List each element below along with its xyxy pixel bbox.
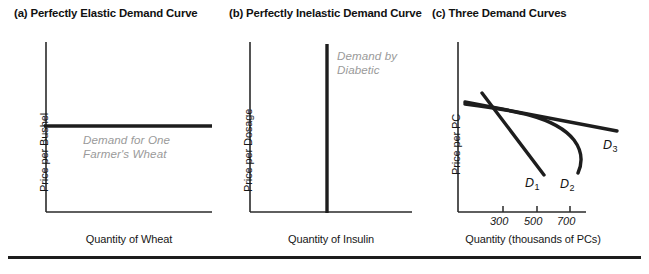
curve-label-d2-sub: 2 [570,183,575,193]
curve-label-d3-sub: 3 [613,144,618,154]
curve-label-d3: D3 [603,138,617,152]
curve-label-d2-base: D [560,177,569,191]
panel-perfectly-elastic: (a) Perfectly Elastic Demand Curve Price… [0,0,215,274]
panel-c-x-axis-label: Quantity (thousands of PCs) [438,233,628,245]
panel-c-y-axis-label: Price per PC [450,114,462,175]
three-demand-curves-figure: (a) Perfectly Elastic Demand Curve Price… [0,0,649,274]
x-tick-label-500: 500 [524,215,542,227]
x-tick-label-300: 300 [490,215,508,227]
demand-curve-d2 [465,104,581,173]
panel-a-annotation: Demand for One Farmer's Wheat [83,133,170,160]
panel-perfectly-inelastic: (b) Perfectly Inelastic Demand Curve Pri… [215,0,420,274]
panel-b-x-axis-label: Quantity of Insulin [250,233,412,245]
curve-label-d1-base: D [525,176,534,190]
demand-curve-d1 [482,93,544,175]
panel-a-y-axis-label: Price per Bushel [38,113,50,192]
figure-bottom-rule [8,256,641,259]
curve-label-d3-base: D [603,138,612,152]
panel-a-x-axis-label: Quantity of Wheat [46,233,212,245]
x-tick-label-700: 700 [557,215,575,227]
panel-b-y-axis-label: Price per Dosage [242,109,254,192]
curve-label-d1-sub: 1 [535,182,540,192]
curve-label-d2: D2 [560,177,574,191]
panel-three-demand-curves: (c) Three Demand Curves Price per PC D1 … [420,0,649,274]
panel-b-annotation: Demand by Diabetic [337,49,397,76]
curve-label-d1: D1 [525,176,539,190]
